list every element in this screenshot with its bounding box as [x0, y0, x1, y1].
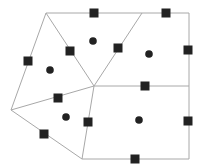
circle-marker [46, 66, 54, 74]
square-marker [184, 46, 193, 55]
edge-line [11, 86, 94, 110]
circle-markers-group [46, 37, 153, 124]
circle-marker [89, 37, 97, 45]
square-marker [184, 117, 193, 126]
square-marker [40, 130, 49, 139]
partition-diagram [0, 0, 203, 166]
square-marker [131, 155, 140, 164]
square-marker [66, 47, 75, 56]
square-marker [90, 9, 99, 18]
circle-marker [145, 50, 153, 58]
square-marker [54, 94, 63, 103]
circle-marker [62, 113, 70, 121]
circle-marker [135, 116, 143, 124]
edges-group [11, 13, 189, 159]
square-marker [84, 118, 93, 127]
square-marker [114, 44, 123, 53]
square-marker [141, 82, 150, 91]
square-marker [162, 9, 171, 18]
square-marker [24, 57, 33, 66]
